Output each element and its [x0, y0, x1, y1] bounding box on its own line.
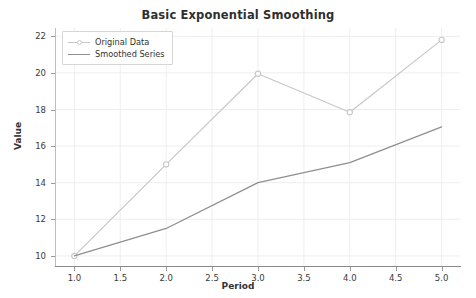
- y-tick-label: 10: [16, 251, 46, 261]
- y-axis-label: Value: [13, 106, 23, 166]
- data-point-marker: [347, 110, 352, 115]
- series-line-smoothed-series: [74, 127, 441, 256]
- x-tick-mark: [350, 267, 351, 271]
- y-tick-label: 14: [16, 178, 46, 188]
- legend-circle-marker-icon: [77, 40, 82, 45]
- x-tick-mark: [396, 267, 397, 271]
- y-tick-mark: [51, 183, 55, 184]
- y-tick-mark: [51, 256, 55, 257]
- legend-line-icon: [68, 54, 90, 55]
- x-tick-mark: [304, 267, 305, 271]
- chart-title: Basic Exponential Smoothing: [0, 8, 476, 22]
- x-tick-mark: [212, 267, 213, 271]
- x-tick-mark: [74, 267, 75, 271]
- legend-label-smoothed-series: Smoothed Series: [95, 49, 165, 59]
- x-tick-mark: [166, 267, 167, 271]
- y-tick-mark: [51, 110, 55, 111]
- x-axis-label: Period: [0, 281, 476, 291]
- data-point-marker: [439, 37, 444, 42]
- chart-legend[interactable]: Original Data Smoothed Series: [62, 31, 173, 65]
- y-tick-label: 22: [16, 31, 46, 41]
- data-point-marker: [255, 71, 260, 76]
- x-tick-mark: [258, 267, 259, 271]
- y-tick-mark: [51, 36, 55, 37]
- legend-swatch-original-data: [68, 37, 90, 47]
- y-tick-mark: [51, 219, 55, 220]
- legend-swatch-smoothed-series: [68, 49, 90, 59]
- legend-item-original-data[interactable]: Original Data: [68, 36, 165, 48]
- x-tick-mark: [120, 267, 121, 271]
- y-tick-label: 20: [16, 68, 46, 78]
- y-tick-mark: [51, 146, 55, 147]
- y-tick-label: 12: [16, 214, 46, 224]
- x-tick-mark: [442, 267, 443, 271]
- legend-item-smoothed-series[interactable]: Smoothed Series: [68, 48, 165, 60]
- data-point-marker: [164, 162, 169, 167]
- chart-figure: Basic Exponential Smoothing Original Dat…: [0, 0, 476, 298]
- y-tick-mark: [51, 73, 55, 74]
- plot-area: Original Data Smoothed Series: [56, 28, 460, 266]
- legend-label-original-data: Original Data: [95, 37, 149, 47]
